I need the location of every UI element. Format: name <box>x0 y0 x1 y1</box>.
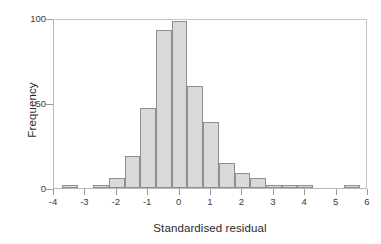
histogram-bar <box>266 185 282 188</box>
histogram-bar <box>235 173 251 188</box>
x-axis-tick <box>367 189 368 195</box>
x-axis-tick-label-wrap: 1 <box>195 197 225 207</box>
y-axis-tick <box>46 189 53 190</box>
x-axis-tick-label: 3 <box>258 197 288 207</box>
histogram-bar <box>250 178 266 188</box>
y-axis-tick-label: 0 <box>18 184 46 194</box>
y-axis-tick-label-wrap: 100 <box>10 14 46 24</box>
x-axis-tick-label: 2 <box>226 197 256 207</box>
x-axis-tick-label-wrap: -3 <box>69 197 99 207</box>
histogram-bars <box>54 20 366 188</box>
histogram-bar <box>297 185 313 188</box>
histogram-bar <box>156 30 172 188</box>
x-axis-title: Standardised residual <box>52 222 368 234</box>
histogram-bar <box>219 163 235 189</box>
y-axis-tick <box>46 104 53 105</box>
x-axis-tick-label-wrap: 6 <box>352 197 381 207</box>
histogram-bar <box>62 185 78 188</box>
x-axis-tick <box>336 189 337 195</box>
x-axis-tick-label: 4 <box>289 197 319 207</box>
x-axis-tick <box>241 189 242 195</box>
histogram-bar <box>125 156 141 188</box>
y-axis-tick-label: 100 <box>18 14 46 24</box>
y-axis-title: Frequency <box>26 30 38 190</box>
x-axis-tick-label-wrap: 0 <box>164 197 194 207</box>
histogram-bar <box>172 21 188 188</box>
histogram-bar <box>344 185 360 188</box>
y-axis-tick-label-wrap: 0 <box>10 184 46 194</box>
plot-area <box>53 19 367 189</box>
x-axis-tick <box>84 189 85 195</box>
x-axis-tick-label-wrap: 3 <box>258 197 288 207</box>
x-axis-tick <box>179 189 180 195</box>
x-axis-tick-label-wrap: -1 <box>132 197 162 207</box>
y-axis-tick <box>46 19 53 20</box>
x-axis-tick <box>147 189 148 195</box>
x-axis-tick-label: -4 <box>38 197 68 207</box>
x-axis-tick-label-wrap: -2 <box>101 197 131 207</box>
x-axis-tick <box>210 189 211 195</box>
histogram-bar <box>203 122 219 188</box>
histogram-figure: Frequency 050100 -4-3-2-10123456 Standar… <box>0 0 381 244</box>
histogram-bar <box>93 185 109 188</box>
x-axis-tick-label: 1 <box>195 197 225 207</box>
histogram-bar <box>140 108 156 188</box>
histogram-bar <box>109 178 125 188</box>
x-axis-tick-label: 0 <box>164 197 194 207</box>
x-axis-tick-label: -1 <box>132 197 162 207</box>
x-axis-tick-label: 5 <box>321 197 351 207</box>
y-axis-tick-label-wrap: 50 <box>10 99 46 109</box>
x-axis-tick-label: -3 <box>69 197 99 207</box>
x-axis-tick <box>53 189 54 195</box>
x-axis-tick-label: -2 <box>101 197 131 207</box>
x-axis-tick <box>304 189 305 195</box>
x-axis-tick-label-wrap: -4 <box>38 197 68 207</box>
x-axis-tick <box>116 189 117 195</box>
histogram-bar <box>187 86 203 188</box>
x-axis-tick-label-wrap: 5 <box>321 197 351 207</box>
x-axis-tick-label: 6 <box>352 197 381 207</box>
x-axis-tick-label-wrap: 2 <box>226 197 256 207</box>
histogram-bar <box>282 185 298 188</box>
x-axis-tick <box>273 189 274 195</box>
y-axis-tick-label: 50 <box>18 99 46 109</box>
x-axis-tick-label-wrap: 4 <box>289 197 319 207</box>
